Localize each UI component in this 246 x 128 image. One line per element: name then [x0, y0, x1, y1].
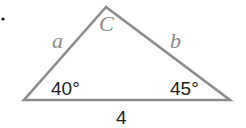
base-length-label: 4: [116, 107, 127, 128]
vertex-label-c: C: [99, 11, 114, 36]
angle-right-label: 45°: [170, 78, 199, 99]
side-label-a: a: [52, 28, 63, 53]
angle-left-label: 40°: [51, 78, 80, 99]
side-label-b: b: [170, 28, 181, 53]
triangle-diagram: a C b 40° 45° 4: [0, 0, 246, 128]
bullet-icon: [1, 17, 4, 20]
